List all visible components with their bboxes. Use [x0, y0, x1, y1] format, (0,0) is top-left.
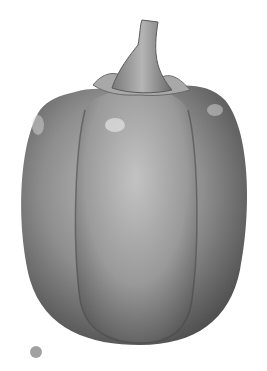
pepper-drawing: Pencil drawing of a bell pepper [0, 0, 267, 371]
pepper-illustration [0, 0, 267, 371]
smudge-dot [30, 346, 42, 358]
